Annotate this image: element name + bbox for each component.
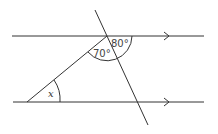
angle-label-x: x: [48, 88, 54, 99]
angle-arc-x: [54, 80, 60, 102]
geometry-diagram: 80° 70° x: [0, 0, 218, 134]
transversal-line: [95, 10, 148, 125]
slanted-line: [27, 36, 107, 102]
angle-label-80: 80°: [111, 38, 129, 49]
angle-label-70: 70°: [93, 48, 111, 59]
